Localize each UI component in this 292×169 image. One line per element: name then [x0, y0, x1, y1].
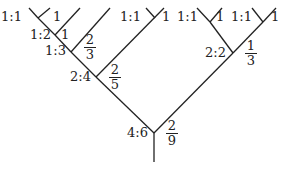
value-label: 1 [61, 28, 69, 41]
tree-lines [0, 0, 292, 169]
denominator: 5 [111, 79, 119, 91]
ratio-label: 1:2 [30, 28, 51, 41]
denominator: 3 [86, 49, 94, 61]
ratio-label: 4:6 [127, 126, 148, 139]
denominator: 9 [168, 135, 176, 147]
fraction-label: 2 5 [109, 64, 121, 91]
numerator: 2 [168, 120, 176, 132]
fraction-label: 2 9 [166, 120, 178, 147]
value-label: 1 [53, 10, 61, 23]
ratio-label: 1:1 [1, 10, 22, 23]
value-label: 1 [271, 10, 279, 23]
ratio-label: 1:1 [177, 10, 198, 23]
numerator: 2 [86, 34, 94, 46]
fraction-label: 1 3 [245, 40, 257, 67]
ratio-label: 1:3 [45, 44, 66, 57]
numerator: 1 [247, 40, 255, 52]
fraction-label: 2 3 [84, 34, 96, 61]
ratio-label: 1:1 [120, 10, 141, 23]
ratio-label: 2:2 [205, 46, 226, 59]
ratio-label: 1:1 [231, 10, 252, 23]
numerator: 2 [111, 64, 119, 76]
denominator: 3 [247, 55, 255, 67]
value-label: 1 [162, 10, 170, 23]
value-label: 1 [216, 10, 224, 23]
ratio-label: 2:4 [70, 70, 91, 83]
